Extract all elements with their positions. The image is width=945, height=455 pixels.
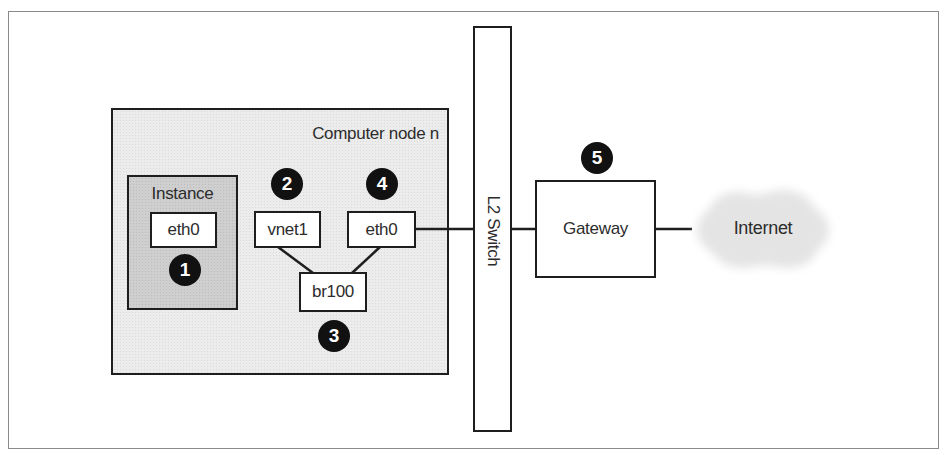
badge-3-icon: 3 bbox=[318, 320, 350, 352]
vnet1-box: vnet1 bbox=[254, 211, 321, 248]
gateway-label: Gateway bbox=[563, 219, 628, 239]
badge-2-icon: 2 bbox=[271, 168, 303, 200]
gateway-box: Gateway bbox=[535, 180, 656, 278]
vnet1-to-br100-line bbox=[278, 247, 313, 273]
badge-4-icon: 4 bbox=[366, 168, 398, 200]
badge-2-number: 2 bbox=[282, 173, 293, 195]
l2-switch-box: L2 Switch bbox=[473, 26, 512, 432]
badge-3-number: 3 bbox=[329, 325, 340, 347]
badge-4-number: 4 bbox=[377, 173, 388, 195]
br100-bridge-box: br100 bbox=[299, 272, 367, 312]
host-eth0-label: eth0 bbox=[366, 220, 398, 240]
internet-label: Internet bbox=[683, 218, 843, 239]
eth0-to-br100-line bbox=[352, 247, 380, 273]
badge-5-number: 5 bbox=[592, 147, 603, 169]
l2-switch-label: L2 Switch bbox=[483, 195, 503, 266]
badge-5-icon: 5 bbox=[581, 142, 613, 174]
br100-label: br100 bbox=[312, 282, 354, 302]
host-eth0-box: eth0 bbox=[347, 211, 416, 248]
vnet1-label: vnet1 bbox=[267, 220, 307, 240]
internet-cloud-icon: Internet bbox=[683, 178, 843, 282]
